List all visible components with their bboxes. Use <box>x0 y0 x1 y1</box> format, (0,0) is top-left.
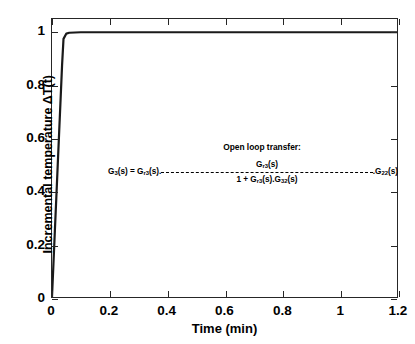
x-tick-label: 1 <box>336 304 344 318</box>
x-tick-label: 0.6 <box>215 304 234 318</box>
y-tick-label: 0.4 <box>0 185 45 199</box>
x-tick <box>226 291 227 297</box>
x-tick-top <box>168 19 169 25</box>
equation-fraction: Gr3(s) 1 + Gr3(s).G32(s) <box>161 159 373 187</box>
x-tick-label: 0 <box>47 304 55 318</box>
equation-right-hand-side: .G22(s) <box>373 167 398 178</box>
y-axis-label: Incremental temperature ΔT(t) <box>42 34 55 294</box>
chart-figure: 00.20.40.60.811.2 00.20.40.60.81 Time (m… <box>0 0 415 344</box>
x-tick <box>341 291 342 297</box>
y-tick-right <box>391 299 397 300</box>
x-axis-label: Time (min) <box>51 322 398 335</box>
x-tick-label: 0.2 <box>99 304 118 318</box>
equation-numerator: Gr3(s) <box>256 159 278 171</box>
y-tick-right <box>391 32 397 33</box>
x-tick <box>283 291 284 297</box>
x-tick-label: 0.4 <box>157 304 176 318</box>
y-tick-right <box>391 86 397 87</box>
x-tick-top <box>341 19 342 25</box>
y-tick-label: 0.2 <box>0 238 45 252</box>
y-tick-label: 1 <box>0 25 45 39</box>
y-tick-right <box>391 246 397 247</box>
x-tick-top <box>110 19 111 25</box>
transfer-function-annotation: Open loop transfer: G3(s) = Gr3(s). Gr3(… <box>108 142 398 186</box>
equation-denominator: 1 + Gr3(s).G32(s) <box>236 174 297 186</box>
y-tick-label: 0.8 <box>0 78 45 92</box>
x-tick <box>110 291 111 297</box>
x-tick-top <box>226 19 227 25</box>
annotation-title: Open loop transfer: <box>126 142 398 153</box>
y-tick <box>52 32 58 33</box>
x-tick-top <box>283 19 284 25</box>
y-tick <box>52 299 58 300</box>
equation-left-hand-side: G3(s) = Gr3(s). <box>108 167 161 178</box>
y-tick-right <box>391 139 397 140</box>
equation-fraction-bar <box>161 172 373 173</box>
x-tick <box>399 291 400 297</box>
y-tick-right <box>391 192 397 193</box>
x-tick <box>168 291 169 297</box>
x-tick-top <box>52 19 53 25</box>
x-tick-top <box>399 19 400 25</box>
x-tick-label: 0.8 <box>273 304 292 318</box>
annotation-equation: G3(s) = Gr3(s). Gr3(s) 1 + Gr3(s).G32(s)… <box>108 159 398 187</box>
y-tick-label: 0.6 <box>0 131 45 145</box>
y-tick-label: 0 <box>0 291 45 305</box>
x-tick-label: 1.2 <box>389 304 408 318</box>
